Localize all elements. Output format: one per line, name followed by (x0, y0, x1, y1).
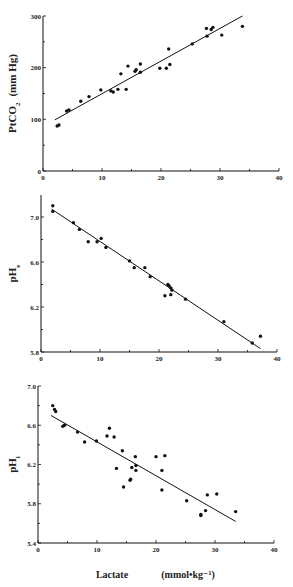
y-tick-label: 5.8 (30, 349, 39, 357)
data-point (143, 266, 146, 269)
data-point (87, 95, 90, 98)
x-tick-label: 20 (153, 546, 161, 554)
data-point (79, 100, 82, 103)
y-tick-label: 7.0 (27, 383, 36, 391)
data-point (51, 210, 54, 213)
x-tick-label: 0 (39, 355, 43, 363)
data-point (134, 464, 137, 467)
figure: 0102030400100200300PtCO2(mm Hg) 01020304… (0, 0, 293, 587)
data-point (163, 294, 166, 297)
y-tick-label: 200 (31, 64, 42, 72)
y-tick-label: 7.0 (30, 214, 39, 222)
x-tick-label: 40 (276, 174, 284, 182)
data-point (165, 66, 168, 69)
data-point (51, 404, 54, 407)
data-point (163, 454, 166, 457)
data-point (116, 88, 119, 91)
y-tick-label: 0 (38, 168, 42, 176)
data-point (115, 467, 118, 470)
data-point (121, 449, 124, 452)
data-point (160, 469, 163, 472)
x-tick-label: 30 (212, 546, 220, 554)
data-point (134, 469, 137, 472)
data-point (105, 434, 108, 437)
data-point (57, 123, 60, 126)
data-point (95, 439, 98, 442)
data-point (76, 430, 79, 433)
data-point (251, 341, 254, 344)
data-point (99, 237, 102, 240)
x-axis-unit: (mmol•kg⁻¹) (161, 569, 214, 581)
data-point (124, 88, 127, 91)
data-point (95, 240, 98, 243)
data-point (122, 485, 125, 488)
data-point (112, 90, 115, 93)
y-tick-label: 100 (31, 116, 42, 124)
x-tick-label: 30 (217, 174, 225, 182)
data-point (128, 259, 131, 262)
y-axis-label: PtCO2(mm Hg) (6, 54, 22, 133)
data-point (222, 320, 225, 323)
data-point (220, 33, 223, 36)
y-tick-label: 300 (31, 13, 42, 21)
data-point (129, 478, 132, 481)
data-point (112, 435, 115, 438)
data-point (72, 221, 75, 224)
x-tick-label: 10 (94, 546, 102, 554)
data-point (170, 288, 173, 291)
x-tick-label: 30 (215, 355, 223, 363)
data-point (133, 266, 136, 269)
data-point (130, 466, 133, 469)
y-tick-label: 6.2 (27, 461, 36, 469)
data-point (241, 25, 244, 28)
data-point (139, 62, 142, 65)
data-point (78, 228, 81, 231)
data-point (184, 297, 187, 300)
data-point (191, 42, 194, 45)
y-tick-label: 6.6 (27, 422, 36, 430)
x-tick-label: 0 (41, 174, 45, 182)
data-point (87, 240, 90, 243)
data-point (204, 509, 207, 512)
data-point (205, 27, 208, 30)
data-point (160, 488, 163, 491)
y-tick-label: 5.8 (27, 500, 36, 508)
data-point (259, 335, 262, 338)
data-point (206, 493, 209, 496)
chart-phi-vs-lactate: 0102030405.45.86.26.67.0pHi (6, 383, 278, 555)
data-point (215, 492, 218, 495)
data-point (54, 410, 57, 413)
data-point (211, 26, 214, 29)
data-point (154, 455, 157, 458)
data-point (148, 275, 151, 278)
data-point (134, 455, 137, 458)
data-point (169, 293, 172, 296)
x-tick-label: 10 (97, 355, 105, 363)
data-point (135, 68, 138, 71)
x-tick-label: 0 (36, 546, 40, 554)
chart-phe-vs-lactate: 0102030405.86.26.67.0pHe (6, 195, 281, 363)
x-tick-label: 40 (271, 546, 279, 554)
data-point (205, 34, 208, 37)
data-point (63, 424, 66, 427)
data-point (51, 204, 54, 207)
y-axis-label: pHi (6, 456, 22, 473)
y-tick-label: 5.4 (27, 540, 36, 548)
data-point (99, 88, 102, 91)
x-axis-label: Lactate (96, 569, 129, 580)
regression-line (55, 16, 243, 120)
data-point (67, 108, 70, 111)
data-point (234, 510, 237, 513)
x-tick-label: 20 (156, 355, 164, 363)
data-point (158, 66, 161, 69)
y-tick-label: 6.2 (30, 304, 39, 312)
data-point (167, 47, 170, 50)
data-point (104, 246, 107, 249)
regression-line (52, 209, 261, 349)
data-point (199, 514, 202, 517)
data-point (168, 63, 171, 66)
data-point (119, 72, 122, 75)
x-tick-label: 40 (274, 355, 282, 363)
data-point (108, 426, 111, 429)
chart-ptco2-vs-lactate: 0102030400100200300PtCO2(mm Hg) (6, 13, 283, 183)
